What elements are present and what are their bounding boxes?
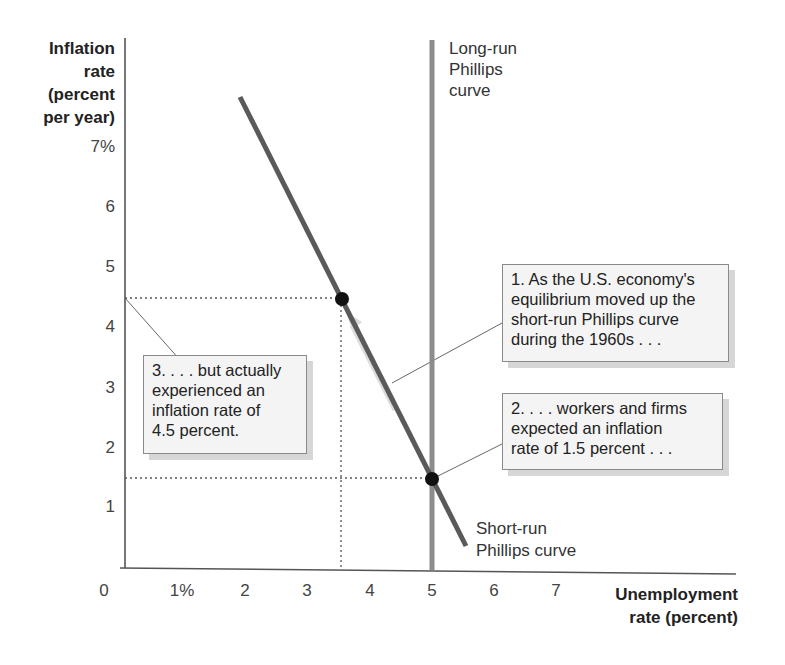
y-axis-title-line: per year)	[0, 106, 115, 129]
x-axis-title-line: rate (percent)	[560, 606, 738, 629]
callout-3-line: inflation rate of	[152, 400, 298, 420]
leader-line-2	[438, 444, 502, 476]
x-tick-0: 0	[84, 581, 124, 601]
y-tick-3: 3	[75, 378, 115, 398]
y-tick-5: 5	[75, 257, 115, 277]
leader-line-3	[125, 298, 180, 360]
y-axis-title-line: rate	[0, 60, 115, 83]
x-tick-4: 4	[350, 581, 390, 601]
y-axis-title-line: (percent	[0, 83, 115, 106]
x-tick-3: 3	[287, 581, 327, 601]
callout-2-line: 2. . . . workers and firms	[511, 398, 714, 418]
callout-3-line: 4.5 percent.	[152, 420, 298, 440]
callout-1-line: equilibrium moved up the	[511, 289, 720, 309]
y-tick-4: 4	[75, 317, 115, 337]
y-tick-2: 2	[75, 438, 115, 458]
x-axis-title-line: Unemployment	[560, 583, 738, 606]
y-tick-6: 6	[75, 197, 115, 217]
callout-2: 2. . . . workers and firms expected an i…	[502, 393, 723, 470]
leader-line-1	[392, 323, 502, 383]
x-tick-6: 6	[474, 581, 514, 601]
y-axis-title: Inflation rate (percent per year)	[0, 37, 115, 129]
lrpc-label-line: Phillips	[449, 59, 517, 80]
y-axis-title-line: Inflation	[0, 37, 115, 60]
y-tick-7: 7%	[75, 137, 115, 157]
srpc-label-line: Short-run	[476, 518, 576, 540]
x-axis	[120, 568, 736, 574]
y-tick-1: 1	[75, 497, 115, 517]
x-tick-2: 2	[225, 581, 265, 601]
callout-3-line: 3. . . . but actually	[152, 360, 298, 380]
callout-1-line: during the 1960s . . .	[511, 329, 720, 349]
callout-2-line: expected an inflation	[511, 418, 714, 438]
lrpc-label: Long-run Phillips curve	[449, 38, 517, 101]
point-actual-4-5	[335, 292, 349, 306]
callout-1-line: 1. As the U.S. economy's	[511, 269, 720, 289]
lrpc-label-line: Long-run	[449, 38, 517, 59]
callout-3: 3. . . . but actually experienced an inf…	[143, 355, 307, 454]
callout-1: 1. As the U.S. economy's equilibrium mov…	[502, 264, 729, 362]
x-axis-title: Unemployment rate (percent)	[560, 583, 738, 629]
callout-1-line: short-run Phillips curve	[511, 309, 720, 329]
point-expected-1-5	[425, 472, 439, 486]
lrpc-label-line: curve	[449, 80, 517, 101]
srpc-label-line: Phillips curve	[476, 540, 576, 562]
x-tick-5: 5	[412, 581, 452, 601]
srpc-label: Short-run Phillips curve	[476, 518, 576, 562]
x-tick-1: 1%	[162, 581, 202, 601]
callout-3-line: experienced an	[152, 380, 298, 400]
callout-2-line: rate of 1.5 percent . . .	[511, 438, 714, 458]
